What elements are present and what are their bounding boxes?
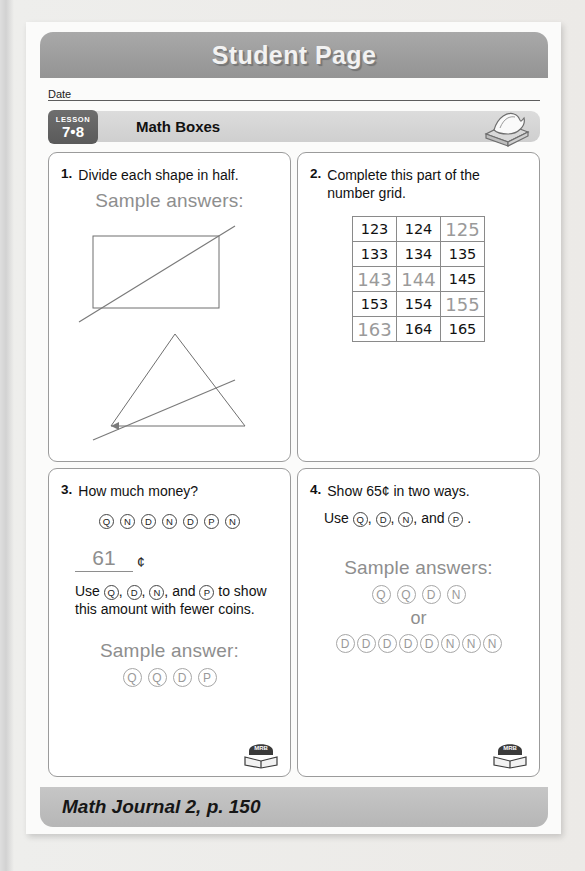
lesson-badge: LESSON 7•8 <box>48 110 98 144</box>
problem-2-number: 2. <box>310 166 321 202</box>
problem-4-sample-label: Sample answers: <box>298 557 539 579</box>
problem-4-sample-coins-2: DDDDDNNN <box>298 633 539 652</box>
problem-2-heading: 2. Complete this part of the number grid… <box>298 153 539 202</box>
mrb-label-3: MRB <box>254 745 268 751</box>
coin-q: Q <box>104 585 119 600</box>
problem-box-1: 1. Divide each shape in half. Sample ans… <box>48 152 291 462</box>
coin-q: Q <box>99 514 114 529</box>
number-grid-row: 143144145 <box>353 267 485 292</box>
number-grid-row: 133134135 <box>353 242 485 267</box>
coin-q: Q <box>397 585 416 604</box>
mrb-label-4: MRB <box>503 745 517 751</box>
number-grid-cell[interactable]: 133 <box>353 242 397 267</box>
lesson-title: Math Boxes <box>136 118 220 135</box>
student-page-root: Student Page Date Math Boxes LESSON 7•8 <box>0 0 585 871</box>
coin-d: D <box>173 668 192 687</box>
problem-1-heading: 1. Divide each shape in half. <box>49 153 290 184</box>
number-grid-cell-answer[interactable]: 144 <box>397 267 441 292</box>
number-grid-cell-answer[interactable]: 163 <box>353 317 397 342</box>
number-grid-row: 153154155 <box>353 292 485 317</box>
coin-q: Q <box>372 585 391 604</box>
coin-d: D <box>357 634 376 653</box>
coin-n: N <box>483 634 502 653</box>
number-grid-cell[interactable]: 153 <box>353 292 397 317</box>
coin-d: D <box>141 514 156 529</box>
problem-4-instruction-prefix: Use <box>324 510 349 526</box>
problem-3-instruction-prefix: Use <box>75 583 100 599</box>
problem-4-instruction-suffix: . <box>467 510 471 526</box>
coin-p: P <box>448 512 463 527</box>
coin-d: D <box>420 634 439 653</box>
problem-4-inline-coins: Q, D, N, and P <box>353 510 464 526</box>
page-banner: Student Page <box>40 32 548 78</box>
problem-3-answer-value[interactable]: 61 <box>75 546 133 572</box>
number-grid-row: 123124125 <box>353 217 485 242</box>
number-grid-cell[interactable]: 135 <box>441 242 485 267</box>
coin-d: D <box>376 512 391 527</box>
coin-q: Q <box>148 668 167 687</box>
number-grid-cell[interactable]: 124 <box>397 217 441 242</box>
page-footer: Math Journal 2, p. 150 <box>40 787 548 827</box>
banner-title: Student Page <box>212 41 377 70</box>
problem-4-instruction: Use Q, D, N, and P . <box>324 509 527 527</box>
coin-d: D <box>378 634 397 653</box>
mrb-reference-icon-4: MRB 88-89 <box>490 737 530 769</box>
mrb-reference-icon-3: MRB 88-89 <box>241 737 281 769</box>
number-grid-table[interactable]: 1231241251331341351431441451531541551631… <box>352 216 485 342</box>
mrb-pages-4: 88-89 <box>503 754 517 760</box>
coin-n: N <box>225 514 240 529</box>
lesson-number: 7•8 <box>48 124 98 140</box>
number-grid-cell[interactable]: 134 <box>397 242 441 267</box>
date-row: Date <box>48 84 540 102</box>
number-grid-cell[interactable]: 165 <box>441 317 485 342</box>
number-grid-row: 163164165 <box>353 317 485 342</box>
problem-2-prompt: Complete this part of the number grid. <box>327 166 527 202</box>
coin-p: P <box>198 668 217 687</box>
mrb-pages-3: 88-89 <box>254 754 268 760</box>
problem-3-instruction: Use Q, D, N, and P to show this amount w… <box>75 582 276 618</box>
coin-d: D <box>183 514 198 529</box>
lesson-header-bar: Math Boxes LESSON 7•8 <box>48 110 540 144</box>
problem-1-number: 1. <box>61 166 72 184</box>
number-grid-cell-answer[interactable]: 143 <box>353 267 397 292</box>
coin-n: N <box>162 514 177 529</box>
footer-text: Math Journal 2, p. 150 <box>62 796 261 818</box>
coin-q: Q <box>123 668 142 687</box>
coin-q: Q <box>353 512 368 527</box>
problem-box-2: 2. Complete this part of the number grid… <box>297 152 540 462</box>
problem-3-prompt: How much money? <box>78 482 198 500</box>
date-write-line[interactable] <box>48 100 540 101</box>
number-grid-cell[interactable]: 145 <box>441 267 485 292</box>
problem-3-answer-line[interactable]: 61 ¢ <box>75 546 290 572</box>
problem-1-sample-label: Sample answers: <box>49 190 290 212</box>
number-grid-cell-answer[interactable]: 155 <box>441 292 485 317</box>
number-grid-cell[interactable]: 164 <box>397 317 441 342</box>
number-grid-body: 1231241251331341351431441451531541551631… <box>353 217 485 342</box>
coin-d: D <box>399 634 418 653</box>
coin-n: N <box>462 634 481 653</box>
journal-book-icon <box>478 104 536 154</box>
coin-d: D <box>422 585 441 604</box>
lesson-title-strip: Math Boxes <box>92 111 540 142</box>
problem-4-number: 4. <box>310 482 321 500</box>
coin-n: N <box>441 634 460 653</box>
problem-3-sample-label: Sample answer: <box>49 640 290 662</box>
problem-1-shapes[interactable] <box>49 214 290 448</box>
problem-4-prompt: Show 65¢ in two ways. <box>327 482 469 500</box>
coin-n: N <box>447 585 466 604</box>
problem-3-number: 3. <box>61 482 72 500</box>
coin-n: N <box>120 514 135 529</box>
coin-d: D <box>127 585 142 600</box>
problem-box-4: 4. Show 65¢ in two ways. Use Q, D, N, an… <box>297 468 540 777</box>
coin-d: D <box>336 634 355 653</box>
coin-p: P <box>204 514 219 529</box>
cent-symbol: ¢ <box>137 554 145 572</box>
math-boxes-grid: 1. Divide each shape in half. Sample ans… <box>48 152 540 777</box>
problem-4-sample-coins-1: QQDN <box>298 585 539 604</box>
problem-4-or-word: or <box>298 608 539 629</box>
number-grid-cell[interactable]: 154 <box>397 292 441 317</box>
problem-1-prompt: Divide each shape in half. <box>78 166 238 184</box>
number-grid-cell[interactable]: 123 <box>353 217 397 242</box>
problem-3-coin-row: QNDNDPN <box>49 512 290 530</box>
number-grid-cell-answer[interactable]: 125 <box>441 217 485 242</box>
